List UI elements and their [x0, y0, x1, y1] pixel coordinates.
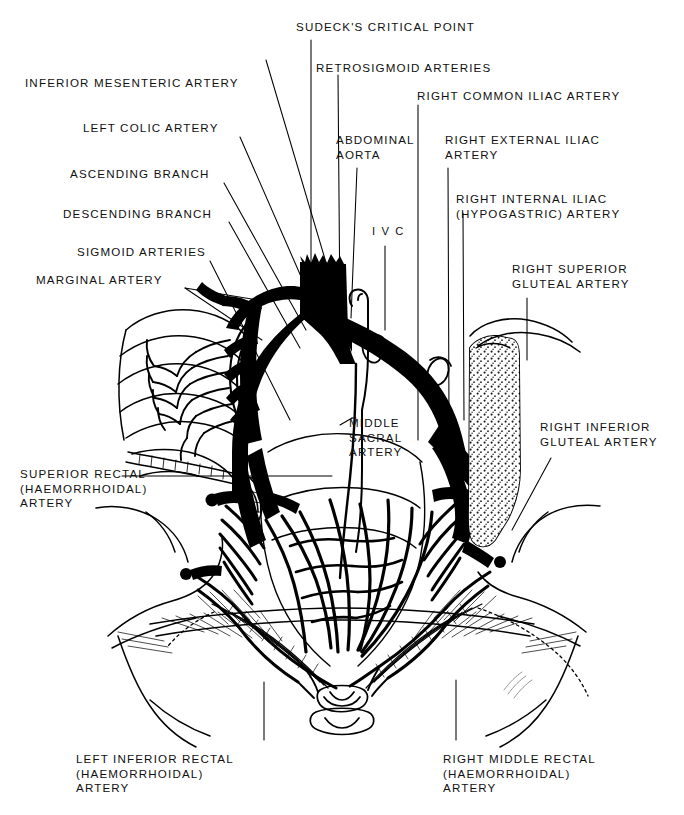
vasa-recta-network — [147, 340, 237, 460]
label-right-inferior-gluteal-artery: RIGHT INFERIOR GLUTEAL ARTERY — [540, 420, 658, 449]
label-descending-branch: DESCENDING BRANCH — [63, 207, 212, 222]
label-retrosigmoid-arteries: RETROSIGMOID ARTERIES — [316, 61, 491, 76]
artist-signature — [504, 672, 532, 698]
label-abdominal-aorta: ABDOMINAL AORTA — [336, 133, 415, 162]
label-right-internal-iliac-artery: RIGHT INTERNAL ILIAC (HYPOGASTRIC) ARTER… — [456, 192, 620, 221]
label-sigmoid-arteries: SIGMOID ARTERIES — [77, 245, 206, 260]
label-inferior-mesenteric-artery: INFERIOR MESENTERIC ARTERY — [25, 76, 239, 91]
anatomical-figure: SUDECK'S CRITICAL POINT RETROSIGMOID ART… — [0, 0, 684, 815]
label-right-middle-rectal-artery: RIGHT MIDDLE RECTAL (HAEMORRHOIDAL) ARTE… — [443, 752, 596, 796]
label-right-external-iliac-artery: RIGHT EXTERNAL ILIAC ARTERY — [445, 133, 600, 162]
label-middle-sacral-artery: MIDDLE SACRAL ARTERY — [349, 416, 403, 460]
label-marginal-artery: MARGINAL ARTERY — [36, 273, 163, 288]
label-left-colic-artery: LEFT COLIC ARTERY — [83, 121, 219, 136]
label-ivc: I V C — [372, 224, 405, 239]
rectal-arterial-plexus — [266, 500, 432, 656]
anal-canal — [310, 686, 374, 735]
label-sudecks-critical-point: SUDECK'S CRITICAL POINT — [296, 20, 475, 35]
label-right-superior-gluteal-artery: RIGHT SUPERIOR GLUTEAL ARTERY — [512, 262, 630, 291]
label-ascending-branch: ASCENDING BRANCH — [70, 167, 210, 182]
label-left-inferior-rectal-artery: LEFT INFERIOR RECTAL (HAEMORRHOIDAL) ART… — [76, 752, 234, 796]
label-right-common-iliac-artery: RIGHT COMMON ILIAC ARTERY — [417, 89, 620, 104]
label-superior-rectal-artery: SUPERIOR RECTAL (HAEMORRHOIDAL) ARTERY — [20, 467, 147, 511]
